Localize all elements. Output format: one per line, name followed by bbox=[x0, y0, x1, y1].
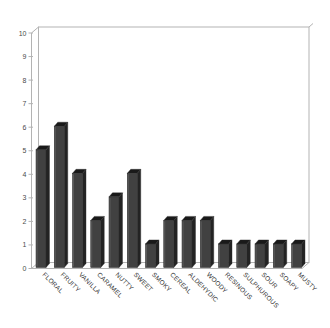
y-tick-label: 10 bbox=[19, 30, 27, 37]
y-tick-label: 0 bbox=[23, 265, 27, 272]
y-tick-label: 8 bbox=[23, 77, 27, 84]
bar-side bbox=[174, 216, 178, 267]
x-category-label: MUSTY bbox=[297, 271, 319, 293]
y-tick-label: 6 bbox=[23, 124, 27, 131]
bar-side bbox=[265, 240, 269, 268]
y-tick-label: 3 bbox=[23, 194, 27, 201]
bar-chart-canvas: 012345678910FLORALFRUITYVANILLACARAMELNU… bbox=[0, 0, 330, 328]
y-tick-label: 5 bbox=[23, 147, 27, 154]
bar-side bbox=[83, 169, 87, 267]
wall-top-right-edge bbox=[309, 24, 313, 28]
y-tick-label: 2 bbox=[23, 218, 27, 225]
y-tick-label: 9 bbox=[23, 53, 27, 60]
bar-side bbox=[229, 240, 233, 268]
bar-side bbox=[101, 216, 105, 267]
bar-side bbox=[64, 122, 68, 267]
bar-side bbox=[137, 169, 141, 267]
bar-side bbox=[247, 240, 251, 268]
bar-side bbox=[156, 240, 160, 268]
bar-side bbox=[119, 193, 123, 268]
y-tick-label: 1 bbox=[23, 241, 27, 248]
y-tick-label: 4 bbox=[23, 171, 27, 178]
bar-side bbox=[302, 240, 306, 268]
bar-side bbox=[210, 216, 214, 267]
bar-side bbox=[283, 240, 287, 268]
bar-side bbox=[192, 216, 196, 267]
y-tick-label: 7 bbox=[23, 100, 27, 107]
bar-side bbox=[46, 146, 50, 268]
wall-top-left-edge bbox=[32, 27, 39, 33]
bar-chart: 012345678910FLORALFRUITYVANILLACARAMELNU… bbox=[0, 0, 330, 328]
